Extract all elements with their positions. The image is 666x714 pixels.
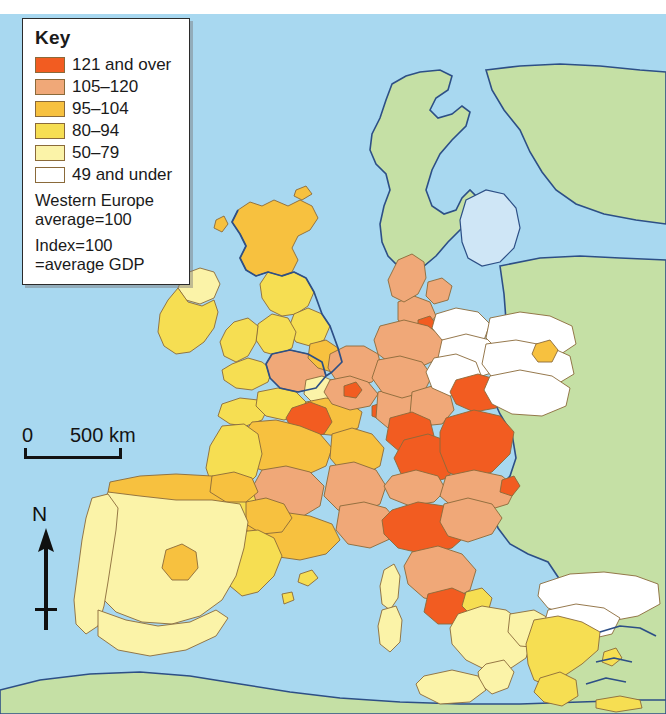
legend-swatch-80-94 [35,123,65,139]
legend-swatch-121-and-over [35,57,65,73]
legend-item-105-120: 105–120 [35,77,179,96]
legend-item-80-94: 80–94 [35,121,179,140]
legend-swatch-105-120 [35,79,65,95]
legend-note-western-europe-average: Western Europe average=100 [35,191,179,229]
legend-item-50-79: 50–79 [35,143,179,162]
legend-box: Key 121 and over 105–120 95–104 80–94 50… [22,18,190,285]
legend-note-line-2: average=100 [35,210,132,228]
legend-swatch-49-and-under [35,167,65,183]
scale-bar-tick-right [119,448,122,459]
north-arrow: N [27,502,67,632]
legend-swatch-50-79 [35,145,65,161]
legend-item-121-and-over: 121 and over [35,55,179,74]
legend-label-121-and-over: 121 and over [72,55,171,74]
scale-bar-line [24,456,121,459]
legend-note-line-4: =average GDP [35,255,145,273]
scale-bar-max-label: 500 km [70,424,136,447]
legend-title: Key [35,27,179,49]
legend-item-95-104: 95–104 [35,99,179,118]
legend-label-49-and-under: 49 and under [72,165,172,184]
scale-bar-min-label: 0 [22,424,33,447]
north-arrow-label: N [32,502,47,526]
legend-label-105-120: 105–120 [72,77,138,96]
scale-bar: 0 500 km [22,424,172,460]
scale-bar-ruler [24,448,172,460]
legend-label-50-79: 50–79 [72,143,119,162]
legend-item-49-and-under: 49 and under [35,165,179,184]
north-arrow-icon [27,524,67,632]
legend-note-line-3: Index=100 [35,236,113,254]
legend-note-line-1: Western Europe [35,191,154,209]
map-figure: .sea { fill:#a8d8f0; } .out { fill:#c5e0… [0,0,666,714]
scale-bar-labels: 0 500 km [22,424,172,448]
legend-label-80-94: 80–94 [72,121,119,140]
legend-swatch-95-104 [35,101,65,117]
legend-note-index-average-gdp: Index=100 =average GDP [35,236,179,274]
legend-label-95-104: 95–104 [72,99,129,118]
